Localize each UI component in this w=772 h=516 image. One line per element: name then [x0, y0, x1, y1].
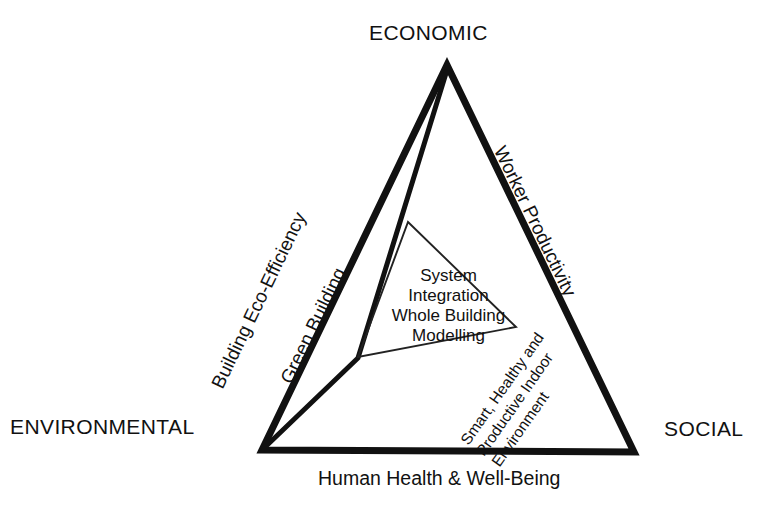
edge-label-human-health: Human Health & Well-Being — [318, 468, 560, 489]
center-line-1: System — [376, 266, 521, 286]
center-text-block: System Integration Whole Building Modell… — [376, 266, 521, 346]
center-line-4: Modelling — [376, 326, 521, 346]
center-line-2: Integration — [376, 286, 521, 306]
vertex-label-economic: ECONOMIC — [369, 22, 488, 45]
vertex-label-environmental: ENVIRONMENTAL — [10, 416, 195, 439]
triangle-diagram: ECONOMIC ENVIRONMENTAL SOCIAL Human Heal… — [0, 0, 772, 516]
vertex-label-social: SOCIAL — [664, 418, 743, 441]
center-line-3: Whole Building — [376, 306, 521, 326]
